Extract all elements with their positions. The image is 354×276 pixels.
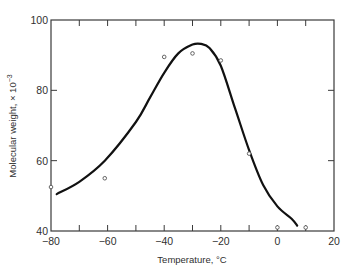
data-point-marker — [103, 176, 107, 180]
x-tick-labels: −80−60−40−20020 — [42, 235, 340, 247]
data-point-marker — [49, 185, 53, 189]
x-tick-label: −20 — [212, 235, 230, 247]
y-tick-labels: 406080100 — [30, 14, 48, 237]
y-tick-label: 100 — [30, 14, 48, 26]
y-tick-label: 80 — [36, 84, 48, 96]
data-point-marker — [162, 55, 166, 59]
x-tick-label: 20 — [328, 235, 340, 247]
x-tick-label: −60 — [99, 235, 117, 247]
fitted-curve — [57, 43, 298, 225]
data-point-marker — [276, 226, 280, 230]
x-tick-label: −80 — [42, 235, 60, 247]
data-point-marker — [247, 152, 251, 156]
data-point-marker — [191, 52, 195, 56]
data-point-marker — [219, 59, 223, 63]
chart: 406080100 −80−60−40−20020 Temperature, °… — [0, 0, 354, 276]
y-axis-title: Molecular weight, × 10−3 — [6, 74, 18, 177]
x-axis-title: Temperature, °C — [157, 254, 226, 265]
x-tick-label: 0 — [274, 235, 280, 247]
data-point-marker — [304, 226, 308, 230]
x-tick-label: −40 — [155, 235, 173, 247]
y-tick-label: 60 — [36, 155, 48, 167]
data-points — [49, 52, 307, 230]
